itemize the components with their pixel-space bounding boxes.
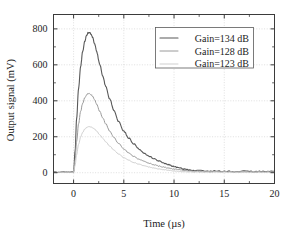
series-line-gain-128-db bbox=[54, 93, 275, 172]
y-tick-label: 0 bbox=[43, 167, 48, 178]
series-line-gain-123-db bbox=[54, 127, 275, 173]
y-tick-label: 200 bbox=[33, 131, 48, 142]
x-axis-label: Time (µs) bbox=[143, 218, 185, 230]
x-tick-label: 20 bbox=[270, 188, 280, 199]
y-axis-tick-labels: 0200400600800 bbox=[33, 23, 48, 178]
y-tick-label: 400 bbox=[33, 95, 48, 106]
legend-label-gain-134: Gain=134 dB bbox=[195, 33, 250, 44]
legend-label-gain-128: Gain=128 dB bbox=[195, 46, 250, 57]
chart-figure: 05101520 0200400600800 Time (µs) Output … bbox=[0, 0, 288, 235]
x-tick-label: 15 bbox=[219, 188, 229, 199]
x-axis-tick-labels: 05101520 bbox=[71, 188, 279, 199]
x-tick-label: 5 bbox=[121, 188, 126, 199]
y-tick-label: 600 bbox=[33, 59, 48, 70]
x-tick-label: 10 bbox=[169, 188, 179, 199]
x-tick-label: 0 bbox=[71, 188, 76, 199]
chart-legend: Gain=134 dB Gain=128 dB Gain=123 dB bbox=[156, 28, 254, 69]
line-chart: 05101520 0200400600800 Time (µs) Output … bbox=[0, 0, 288, 235]
y-axis-label: Output signal (mV) bbox=[5, 58, 17, 141]
y-tick-label: 800 bbox=[33, 23, 48, 34]
legend-label-gain-123: Gain=123 dB bbox=[195, 58, 250, 69]
